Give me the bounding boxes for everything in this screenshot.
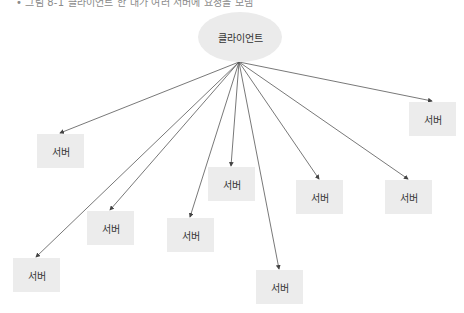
server-node: 서버 — [208, 167, 255, 201]
edge-arrow — [239, 62, 279, 269]
server-node: 서버 — [296, 180, 343, 214]
server-node: 서버 — [87, 211, 134, 245]
server-label: 서버 — [52, 144, 70, 159]
edge-arrow — [239, 62, 408, 179]
edge-arrow — [239, 62, 432, 101]
server-node: 서버 — [37, 134, 84, 168]
server-node: 서버 — [385, 180, 432, 214]
server-node: 서버 — [409, 102, 456, 136]
server-label: 서버 — [182, 228, 200, 243]
server-node: 서버 — [256, 270, 303, 304]
server-label: 서버 — [424, 112, 442, 127]
client-node: 클라이언트 — [198, 12, 282, 62]
client-label: 클라이언트 — [218, 30, 263, 45]
server-label: 서버 — [102, 221, 120, 236]
server-node: 서버 — [13, 258, 60, 292]
server-label: 서버 — [311, 190, 329, 205]
edge-arrow — [231, 62, 239, 166]
server-label: 서버 — [28, 268, 46, 283]
server-node: 서버 — [167, 218, 214, 252]
server-label: 서버 — [400, 190, 418, 205]
edge-arrow — [239, 62, 319, 179]
edge-arrow — [60, 62, 239, 133]
server-label: 서버 — [271, 280, 289, 295]
server-label: 서버 — [223, 177, 241, 192]
